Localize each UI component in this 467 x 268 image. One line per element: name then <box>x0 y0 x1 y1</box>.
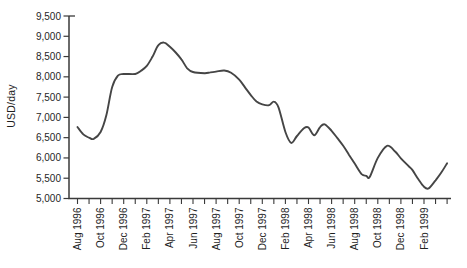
x-tick-label: Apr 1998 <box>303 207 314 248</box>
y-tick-label: 6,500 <box>36 132 61 143</box>
x-tick-label: Dec 1997 <box>257 207 268 250</box>
x-tick-label: Oct 1996 <box>95 207 106 248</box>
x-tick-label: Aug 1996 <box>72 207 83 250</box>
x-axis-ticks <box>78 199 448 205</box>
chart-figure: USD/day 9,5009,0008,5008,0007,5007,0006,… <box>0 0 467 268</box>
x-tick-label: Dec 1996 <box>118 207 129 250</box>
y-axis-title: USD/day <box>5 84 17 127</box>
y-tick-label: 9,000 <box>36 31 61 42</box>
y-tick-label: 7,000 <box>36 112 61 123</box>
x-tick-label: Aug 1998 <box>349 207 360 250</box>
y-tick-label: 8,500 <box>36 51 61 62</box>
y-axis-ticks: 9,5009,0008,5008,0007,5007,0006,5006,000… <box>36 11 69 205</box>
x-tick-label: Apr 1997 <box>164 207 175 248</box>
y-tick-label: 8,000 <box>36 71 61 82</box>
x-tick-label: Jun 1997 <box>188 207 199 249</box>
line-chart-canvas: 9,5009,0008,5008,0007,5007,0006,5006,000… <box>0 0 467 268</box>
x-tick-label: Oct 1997 <box>234 207 245 248</box>
y-tick-label: 5,000 <box>36 193 61 204</box>
rate-line-series <box>78 43 448 189</box>
x-tick-label: Dec 1998 <box>395 207 406 250</box>
y-tick-label: 7,500 <box>36 92 61 103</box>
y-tick-label: 5,500 <box>36 173 61 184</box>
y-tick-label: 9,500 <box>36 11 61 22</box>
x-tick-label: Oct 1998 <box>372 207 383 248</box>
y-tick-label: 6,000 <box>36 152 61 163</box>
x-tick-label: Feb 1997 <box>141 207 152 250</box>
x-tick-label: Feb 1999 <box>419 207 430 250</box>
x-tick-label: Feb 1998 <box>280 207 291 250</box>
x-tick-label: Jun 1998 <box>326 207 337 249</box>
x-axis-labels: Aug 1996Oct 1996Dec 1996Feb 1997Apr 1997… <box>72 207 430 250</box>
axes <box>69 16 451 199</box>
x-tick-label: Aug 1997 <box>211 207 222 250</box>
